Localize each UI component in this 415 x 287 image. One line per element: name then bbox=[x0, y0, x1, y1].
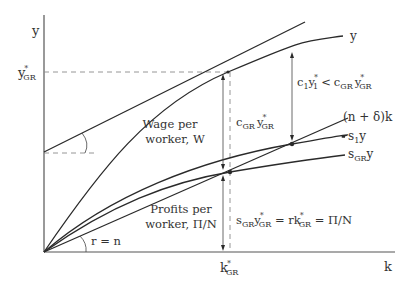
golden-rule-point bbox=[226, 70, 229, 73]
wage-label-line2: worker, W bbox=[145, 132, 205, 146]
savings-gr-label: sGRy bbox=[348, 147, 374, 163]
slope-label: r = n bbox=[91, 234, 121, 248]
depreciation-line-label: (n + δ)k bbox=[343, 110, 393, 124]
profits-equation-label: sGRy*GR = rk*GR = Π/N bbox=[236, 211, 352, 229]
consumption-comparison-label: c1y*1<cGRy*GR bbox=[297, 73, 373, 91]
k-gr-tick-label: k*GR bbox=[220, 259, 239, 277]
y-axis-label: y bbox=[31, 23, 40, 38]
production-curve-label: y bbox=[349, 29, 357, 43]
tangent-angle-arc bbox=[82, 133, 87, 153]
x-axis-label: k bbox=[384, 259, 392, 274]
y-gr-tick-label: y*GR bbox=[17, 64, 37, 82]
consumption-gr-label: cGRy*GR bbox=[236, 113, 275, 131]
savings-1-curve bbox=[44, 135, 347, 252]
steady-state-gr-point bbox=[228, 170, 232, 174]
profits-label-line1: Profits per bbox=[150, 202, 212, 216]
profits-label-line2: worker, Π/N bbox=[145, 217, 217, 231]
savings-1-label: s1y bbox=[348, 129, 366, 145]
origin-angle-arc bbox=[80, 236, 86, 252]
wage-label-line1: Wage per bbox=[142, 117, 198, 131]
golden-rule-diagram: y k y*GR k*GR y (n + δ)k s1y sGRy Wage p… bbox=[0, 0, 415, 287]
steady-state-1-point bbox=[290, 142, 294, 146]
